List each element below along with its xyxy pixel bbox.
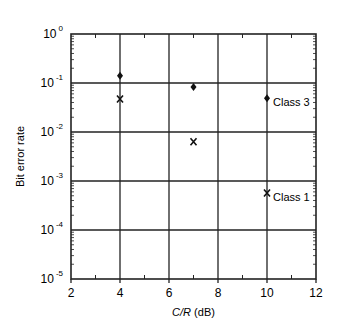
y-tick-label: 10-1 bbox=[41, 73, 64, 90]
diamond-marker bbox=[191, 83, 197, 91]
x-tick-label: 10 bbox=[260, 286, 274, 300]
x-tick-label: 4 bbox=[117, 286, 124, 300]
x-marker bbox=[191, 138, 197, 145]
y-axis-label: Bit error rate bbox=[14, 126, 26, 187]
y-tick-label: 10-3 bbox=[41, 171, 64, 188]
y-tick-label: 10-4 bbox=[41, 220, 64, 237]
y-tick-label: 100 bbox=[43, 24, 63, 41]
diamond-marker bbox=[264, 94, 270, 102]
x-tick-label: 8 bbox=[215, 286, 222, 300]
y-tick-label: 10-5 bbox=[41, 269, 64, 286]
x-tick-label: 12 bbox=[309, 286, 323, 300]
diamond-marker bbox=[117, 72, 123, 80]
x-axis-label: C/R (dB) bbox=[172, 306, 215, 318]
x-tick-label: 2 bbox=[68, 286, 75, 300]
x-tick-label: 6 bbox=[166, 286, 173, 300]
series-annotation: Class 1 bbox=[273, 191, 310, 203]
series-annotation: Class 3 bbox=[273, 96, 310, 108]
ber-chart: 2468101210010-110-210-310-410-5C/R (dB)B… bbox=[0, 0, 339, 332]
plot-frame bbox=[71, 34, 316, 279]
y-tick-label: 10-2 bbox=[41, 122, 64, 139]
